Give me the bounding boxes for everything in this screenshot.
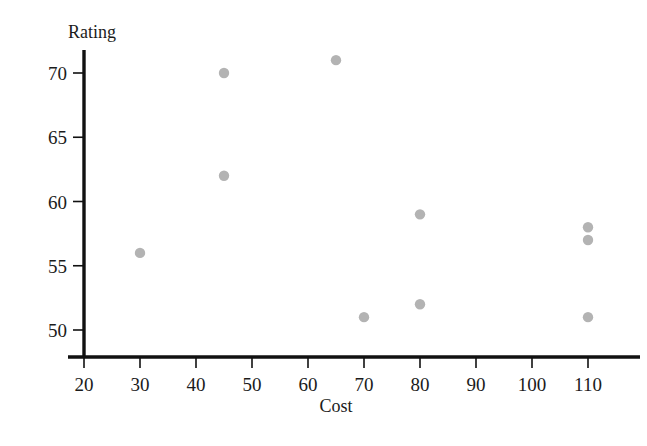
data-point-marker xyxy=(583,222,593,232)
x-tick-label: 90 xyxy=(467,374,486,395)
x-axis-title: Cost xyxy=(319,396,352,416)
y-tick-label: 65 xyxy=(48,127,67,148)
y-axis-title: Rating xyxy=(68,22,116,42)
data-point-marker xyxy=(219,171,229,181)
y-axis: 5055606570 xyxy=(48,50,84,357)
x-tick-label: 20 xyxy=(75,374,94,395)
data-point-marker xyxy=(359,312,369,322)
data-point-marker xyxy=(583,312,593,322)
x-tick-label: 80 xyxy=(411,374,430,395)
scatter-plot-figure: 5055606570 2030405060708090100110 Rating… xyxy=(0,0,647,446)
y-tick-label: 50 xyxy=(48,320,67,341)
x-tick-label: 70 xyxy=(355,374,374,395)
x-tick-label: 100 xyxy=(518,374,547,395)
data-point-marker xyxy=(415,299,425,309)
data-point-marker xyxy=(583,235,593,245)
y-tick-label: 70 xyxy=(48,63,67,84)
x-axis: 2030405060708090100110 xyxy=(68,357,640,395)
x-tick-label: 60 xyxy=(299,374,318,395)
x-tick-label: 40 xyxy=(187,374,206,395)
data-points-layer xyxy=(135,55,593,322)
y-tick-label: 55 xyxy=(48,256,67,277)
data-point-marker xyxy=(331,55,341,65)
x-tick-label: 30 xyxy=(131,374,150,395)
x-tick-label: 110 xyxy=(574,374,602,395)
data-point-marker xyxy=(135,248,145,258)
y-tick-label: 60 xyxy=(48,192,67,213)
data-point-marker xyxy=(219,68,229,78)
data-point-marker xyxy=(415,209,425,219)
x-tick-label: 50 xyxy=(243,374,262,395)
plot-canvas: 5055606570 2030405060708090100110 Rating… xyxy=(0,0,647,446)
